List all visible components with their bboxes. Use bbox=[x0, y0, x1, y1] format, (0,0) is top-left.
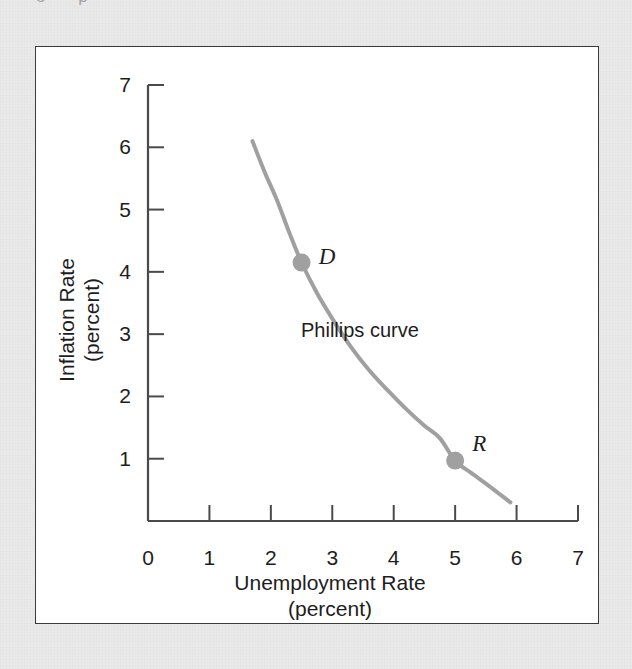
point-label-D: D bbox=[318, 244, 336, 269]
annotation-0: Phillips curve bbox=[301, 319, 419, 341]
y-axis-title-line1: Inflation Rate bbox=[55, 258, 78, 382]
x-tick-label-5: 5 bbox=[449, 546, 461, 569]
x-axis-title-line2: (percent) bbox=[288, 597, 372, 620]
x-tick-label-3: 3 bbox=[326, 546, 338, 569]
y-tick-label-4: 4 bbox=[119, 260, 131, 283]
chart-annotations: Phillips curve bbox=[301, 319, 419, 341]
y-tick-label-6: 6 bbox=[119, 135, 131, 158]
x-tick-label-6: 6 bbox=[511, 546, 523, 569]
axes bbox=[148, 85, 578, 521]
y-axis-ticks bbox=[148, 85, 164, 459]
x-tick-label-7: 7 bbox=[572, 546, 584, 569]
y-axis-title-line2: (percent) bbox=[80, 278, 103, 362]
point-marker-R bbox=[446, 452, 464, 470]
x-axis-tick-labels: 01234567 bbox=[142, 546, 584, 569]
y-tick-label-2: 2 bbox=[119, 384, 131, 407]
axis-titles: Inflation Rate (percent) Unemployment Ra… bbox=[55, 258, 426, 620]
x-tick-label-0: 0 bbox=[142, 546, 154, 569]
y-tick-label-3: 3 bbox=[119, 322, 131, 345]
phillips-curve-chart: 1234567 01234567 Phillips curve DR Infla… bbox=[0, 0, 632, 669]
y-axis-tick-labels: 1234567 bbox=[119, 73, 131, 470]
y-tick-label-7: 7 bbox=[119, 73, 131, 96]
y-tick-label-5: 5 bbox=[119, 198, 131, 221]
y-tick-label-1: 1 bbox=[119, 447, 131, 470]
point-marker-D bbox=[293, 254, 311, 272]
x-tick-label-4: 4 bbox=[388, 546, 400, 569]
x-axis-title-line1: Unemployment Rate bbox=[234, 571, 425, 594]
x-axis-ticks bbox=[209, 505, 578, 521]
point-label-R: R bbox=[471, 431, 486, 456]
x-tick-label-2: 2 bbox=[265, 546, 277, 569]
x-tick-label-1: 1 bbox=[204, 546, 216, 569]
data-point-markers: DR bbox=[293, 244, 487, 469]
